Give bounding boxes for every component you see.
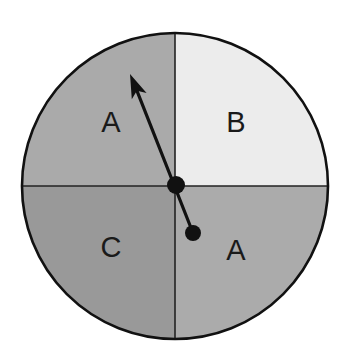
sector-label-top-right: B [226,106,245,138]
sector-bottom-right [175,186,328,339]
pivot-dot-icon [167,176,185,194]
sector-top-right [175,33,328,186]
sector-label-bottom-right: A [226,234,246,266]
sector-bottom-left [22,186,175,339]
spinner-diagram: A B C A [0,0,347,351]
sector-label-bottom-left: C [101,231,122,263]
tail-dot-icon [185,225,201,241]
sector-label-top-left: A [101,106,121,138]
sector-top-left [22,33,175,186]
